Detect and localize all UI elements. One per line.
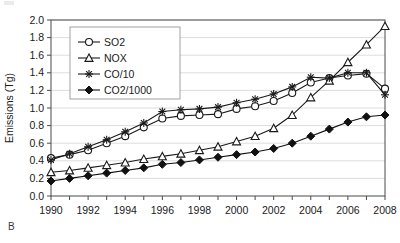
marker-asterisk bbox=[362, 69, 370, 77]
marker-filled-diamond bbox=[270, 144, 278, 152]
y-tick-label: 0.2 bbox=[29, 172, 44, 184]
legend-item-co2-1000[interactable]: CO2/1000 bbox=[78, 84, 152, 96]
y-tick-label: 0.8 bbox=[29, 119, 44, 131]
marker-filled-diamond bbox=[344, 118, 352, 126]
x-tick-label: 2000 bbox=[225, 204, 249, 216]
marker-filled-diamond bbox=[158, 160, 166, 168]
y-tick-label: 0.4 bbox=[29, 154, 44, 166]
y-tick-label: 1.8 bbox=[29, 31, 44, 43]
marker-open-circle bbox=[215, 111, 222, 118]
marker-open-circle bbox=[159, 115, 166, 122]
x-tick-label: 2004 bbox=[299, 204, 323, 216]
marker-asterisk bbox=[195, 105, 203, 113]
marker-filled-diamond bbox=[362, 113, 370, 121]
x-axis: 1990199219941996199820002002200420062008 bbox=[39, 196, 397, 216]
marker-filled-diamond bbox=[233, 151, 241, 159]
marker-asterisk bbox=[66, 150, 74, 158]
legend-label: CO2/1000 bbox=[104, 84, 152, 96]
marker-asterisk bbox=[121, 128, 129, 136]
marker-asterisk bbox=[47, 156, 55, 164]
marker-filled-diamond bbox=[140, 164, 148, 172]
x-tick-label: 1996 bbox=[151, 204, 175, 216]
emissions-line-chart: 0.00.20.40.60.81.01.21.41.61.82.0Emissio… bbox=[0, 0, 400, 243]
marker-filled-diamond bbox=[288, 139, 296, 147]
x-tick-label: 1994 bbox=[114, 204, 138, 216]
x-tick-label: 2008 bbox=[373, 204, 397, 216]
marker-asterisk bbox=[344, 69, 352, 77]
chart-canvas: 0.00.20.40.60.81.01.21.41.61.82.0Emissio… bbox=[0, 0, 400, 243]
marker-asterisk bbox=[140, 119, 148, 127]
marker-asterisk bbox=[85, 70, 93, 78]
marker-filled-diamond bbox=[325, 125, 333, 133]
marker-open-triangle bbox=[381, 22, 389, 29]
legend: SO2NOXCO/10CO2/1000 bbox=[70, 27, 180, 99]
marker-asterisk bbox=[270, 90, 278, 98]
marker-filled-diamond bbox=[307, 132, 315, 140]
y-tick-label: 1.0 bbox=[29, 102, 44, 114]
marker-filled-diamond bbox=[103, 169, 111, 177]
marker-asterisk bbox=[288, 83, 296, 91]
marker-asterisk bbox=[381, 91, 389, 99]
marker-filled-diamond bbox=[251, 148, 259, 156]
marker-asterisk bbox=[307, 73, 315, 81]
marker-filled-diamond bbox=[381, 111, 389, 119]
marker-asterisk bbox=[103, 136, 111, 144]
marker-asterisk bbox=[325, 74, 333, 82]
marker-asterisk bbox=[177, 106, 185, 114]
marker-asterisk bbox=[84, 143, 92, 151]
y-tick-label: 1.4 bbox=[29, 66, 44, 78]
x-tick-label: 2002 bbox=[262, 204, 286, 216]
marker-open-circle bbox=[86, 39, 93, 46]
marker-filled-diamond bbox=[177, 159, 185, 167]
y-tick-label: 0.0 bbox=[29, 190, 44, 202]
marker-asterisk bbox=[251, 95, 259, 103]
marker-filled-diamond bbox=[66, 174, 74, 182]
marker-filled-diamond bbox=[121, 166, 129, 174]
y-tick-label: 0.6 bbox=[29, 137, 44, 149]
marker-filled-diamond bbox=[195, 156, 203, 164]
x-tick-label: 1992 bbox=[76, 204, 100, 216]
marker-asterisk bbox=[158, 108, 166, 116]
legend-label: CO/10 bbox=[104, 68, 135, 80]
x-tick-label: 2006 bbox=[336, 204, 360, 216]
y-axis-title: Emissions (Tg) bbox=[3, 73, 15, 143]
marker-asterisk bbox=[233, 99, 241, 107]
y-tick-label: 1.2 bbox=[29, 84, 44, 96]
x-tick-label: 1998 bbox=[188, 204, 212, 216]
panel-label: B bbox=[8, 221, 15, 232]
marker-open-circle bbox=[270, 97, 277, 104]
x-tick-label: 1990 bbox=[39, 204, 63, 216]
y-tick-label: 2.0 bbox=[29, 14, 44, 26]
marker-filled-diamond bbox=[214, 153, 222, 161]
y-tick-label: 1.6 bbox=[29, 49, 44, 61]
legend-label: SO2 bbox=[104, 36, 125, 48]
legend-label: NOX bbox=[104, 52, 127, 64]
marker-asterisk bbox=[214, 103, 222, 111]
marker-open-circle bbox=[252, 103, 259, 110]
marker-open-triangle bbox=[251, 132, 259, 139]
